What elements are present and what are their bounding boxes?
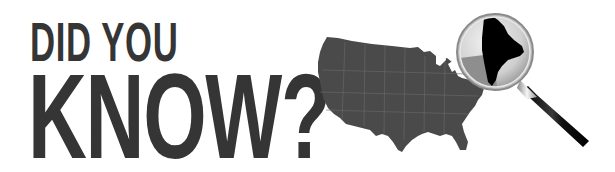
us-map-magnifier-illustration xyxy=(310,0,615,172)
headline-line-2: KNOW? xyxy=(28,56,329,172)
magnifying-glass-icon xyxy=(457,14,589,147)
